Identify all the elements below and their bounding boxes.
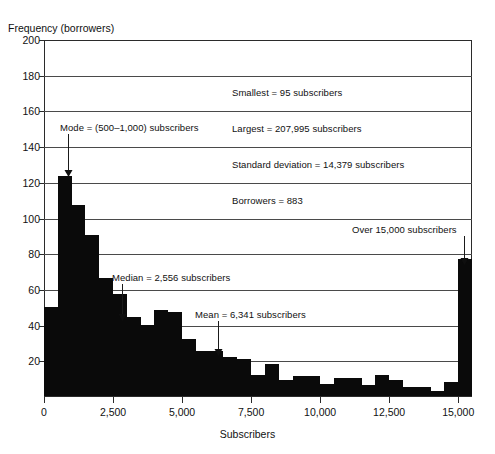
histogram-bar xyxy=(306,376,320,396)
y-axis-tick-mark xyxy=(39,254,44,255)
annotation-borrowers: Borrowers = 883 xyxy=(232,195,303,206)
y-axis-tick-label: 200 xyxy=(22,34,40,46)
histogram-bar xyxy=(72,205,86,396)
histogram-bar xyxy=(237,359,251,396)
annotation-overflow: Over 15,000 subscribers xyxy=(352,224,457,235)
histogram-bar xyxy=(320,384,334,396)
y-axis-tick-mark xyxy=(39,361,44,362)
y-axis-tick-mark xyxy=(39,147,44,148)
histogram-bar xyxy=(375,375,389,396)
histogram-bar xyxy=(99,278,113,396)
histogram-bar xyxy=(85,235,99,396)
mode-arrow-head xyxy=(65,170,73,177)
plot-frame-top xyxy=(44,40,472,41)
x-axis-tick-label: 0 xyxy=(41,406,47,418)
gridline xyxy=(44,111,472,112)
x-axis-tick-mark xyxy=(113,397,114,403)
histogram-bar xyxy=(58,176,72,396)
annotation-largest: Largest = 207,995 subscribers xyxy=(232,123,362,134)
histogram-bar xyxy=(265,364,279,396)
annotation-mode: Mode = (500–1,000) subscribers xyxy=(60,122,199,133)
histogram-bar xyxy=(127,317,141,396)
histogram-figure: Frequency (borrowers) 02,5005,0007,50010… xyxy=(0,0,495,454)
x-axis-tick-label: 15,000 xyxy=(442,406,474,418)
y-axis-tick-mark xyxy=(39,326,44,327)
y-axis-tick-mark xyxy=(39,183,44,184)
y-axis-tick-label: 140 xyxy=(22,141,40,153)
overflow-arrow-line xyxy=(464,236,465,260)
histogram-bar xyxy=(223,357,237,396)
histogram-bar xyxy=(293,376,307,396)
histogram-bar xyxy=(389,380,403,396)
x-axis-tick-mark xyxy=(251,397,252,403)
x-axis-tick-mark xyxy=(320,397,321,403)
y-axis-tick-mark xyxy=(39,40,44,41)
overflow-arrow-head xyxy=(461,258,469,265)
histogram-bar xyxy=(210,351,224,396)
y-axis-tick-mark xyxy=(39,219,44,220)
annotation-smallest: Smallest = 95 subscribers xyxy=(232,87,342,98)
histogram-bar xyxy=(44,307,58,396)
histogram-bar xyxy=(251,375,265,396)
y-axis-title: Frequency (borrowers) xyxy=(8,22,114,34)
mean-arrow-head xyxy=(215,349,223,356)
gridline xyxy=(44,76,472,77)
histogram-bar xyxy=(431,391,445,396)
histogram-bar xyxy=(154,310,168,396)
x-axis-tick-label: 2,500 xyxy=(100,406,126,418)
mean-arrow-line xyxy=(218,321,219,351)
histogram-bar xyxy=(458,259,472,396)
histogram-bar xyxy=(403,387,417,396)
mode-arrow-line xyxy=(68,134,69,172)
y-axis-tick-label: 180 xyxy=(22,70,40,82)
histogram-bar xyxy=(348,378,362,396)
gridline xyxy=(44,254,472,255)
x-axis-tick-mark xyxy=(182,397,183,403)
histogram-bar xyxy=(168,312,182,396)
histogram-bar xyxy=(196,351,210,396)
y-axis-tick-label: 120 xyxy=(22,177,40,189)
histogram-bar xyxy=(417,387,431,396)
y-axis-tick-label: 160 xyxy=(22,105,40,117)
median-arrow-line xyxy=(122,284,123,316)
y-axis-tick-label: 100 xyxy=(22,213,40,225)
histogram-bar xyxy=(362,385,376,396)
histogram-bar xyxy=(182,339,196,396)
x-axis-tick-label: 5,000 xyxy=(169,406,195,418)
median-arrow-head xyxy=(119,314,127,321)
annotation-standard-deviation: Standard deviation = 14,379 subscribers xyxy=(232,159,404,170)
x-axis-title: Subscribers xyxy=(0,428,495,440)
annotation-median: Median = 2,556 subscribers xyxy=(112,272,230,283)
histogram-bar xyxy=(279,380,293,396)
x-axis-tick-label: 10,000 xyxy=(304,406,336,418)
annotation-mean: Mean = 6,341 subscribers xyxy=(195,309,306,320)
gridline xyxy=(44,147,472,148)
x-axis-tick-mark xyxy=(458,397,459,403)
x-axis-tick-label: 12,500 xyxy=(373,406,405,418)
x-axis-tick-mark xyxy=(389,397,390,403)
y-axis-tick-mark xyxy=(39,111,44,112)
x-axis-tick-mark xyxy=(44,397,45,403)
histogram-bar xyxy=(334,378,348,396)
y-axis-tick-mark xyxy=(39,290,44,291)
histogram-bar xyxy=(113,294,127,396)
x-axis-tick-label: 7,500 xyxy=(238,406,264,418)
x-axis-line xyxy=(44,396,472,397)
histogram-bar xyxy=(141,325,155,396)
gridline xyxy=(44,183,472,184)
histogram-bar xyxy=(444,382,458,396)
y-axis-tick-mark xyxy=(39,76,44,77)
gridline xyxy=(44,219,472,220)
